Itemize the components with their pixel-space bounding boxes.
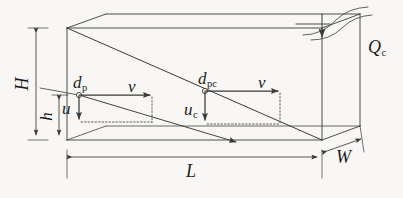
label-particle-diameter-dp: dp	[73, 74, 87, 93]
label-height-H: H	[13, 74, 31, 94]
vector-group-dpc	[202, 88, 280, 124]
label-settling-velocity-u: u	[62, 100, 71, 117]
label-overflow-Qc: Qc	[368, 38, 386, 58]
label-critical-settling-velocity-uc: uc	[184, 101, 198, 120]
label-depth-h: h	[38, 109, 55, 125]
trajectory-main	[67, 28, 322, 140]
label-width-W: W	[336, 148, 351, 166]
label-length-L: L	[186, 162, 196, 180]
vector-group-dp	[76, 92, 152, 122]
label-velocity-v-2: v	[258, 74, 266, 91]
schematic-drawing	[0, 0, 403, 198]
figure-root: H h L W Qc dp v u dpc v uc	[0, 0, 403, 198]
box-top-face	[67, 14, 360, 28]
box-right-face	[322, 14, 360, 140]
label-critical-particle-diameter-dpc: dpc	[198, 70, 217, 89]
label-velocity-v-1: v	[128, 78, 136, 95]
